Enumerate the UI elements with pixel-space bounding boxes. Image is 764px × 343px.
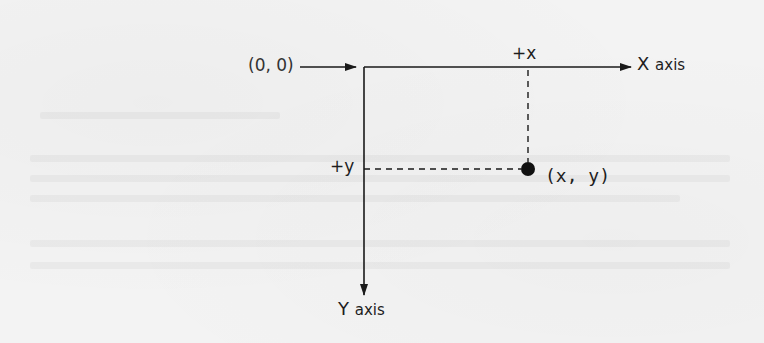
plus-y-label: +y xyxy=(330,158,354,175)
x-axis-label: X axis xyxy=(637,55,685,73)
point-marker xyxy=(521,162,535,176)
y-axis-letter: Y xyxy=(338,298,349,319)
x-axis-letter: X xyxy=(637,53,649,74)
plus-x-label: +x xyxy=(512,45,536,62)
x-axis-word: axis xyxy=(655,56,685,74)
y-axis-word: axis xyxy=(355,301,385,319)
y-axis-label: Y axis xyxy=(338,300,385,318)
point-label: (x, y) xyxy=(545,167,610,185)
coordinate-diagram xyxy=(0,0,764,343)
origin-label: (0, 0) xyxy=(248,57,294,74)
